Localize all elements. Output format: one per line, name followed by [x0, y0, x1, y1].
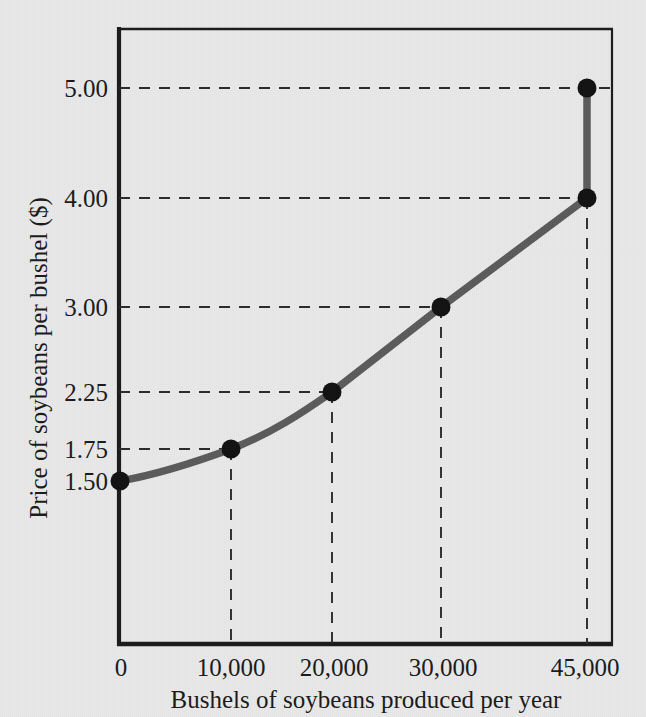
x-tick-label-20000: 20,000 [300, 654, 369, 681]
y-tick-label-1-50: 1.50 [64, 468, 108, 495]
data-point-30000-3-00 [432, 298, 451, 317]
x-tick-labels: 0 10,000 20,000 30,000 45,000 [115, 654, 620, 681]
data-point-45000-5-00 [578, 79, 597, 98]
supply-curve [120, 88, 587, 481]
x-tick-label-0: 0 [115, 654, 128, 681]
y-tick-label-3-00: 3.00 [64, 294, 108, 321]
data-point-markers [111, 79, 597, 491]
y-tick-label-1-75: 1.75 [64, 436, 108, 463]
y-tick-label-5-00: 5.00 [64, 75, 108, 102]
data-point-20000-2-25 [323, 383, 342, 402]
supply-curve-chart: 5.00 4.00 3.00 2.25 1.75 1.50 0 10,000 2… [0, 0, 646, 717]
supply-curve-path [120, 88, 587, 481]
data-point-45000-4-00 [578, 189, 597, 208]
x-tick-label-30000: 30,000 [409, 654, 478, 681]
chart-figure: 5.00 4.00 3.00 2.25 1.75 1.50 0 10,000 2… [0, 0, 646, 717]
y-tick-labels: 5.00 4.00 3.00 2.25 1.75 1.50 [64, 75, 108, 495]
data-point-0-1-50 [111, 472, 130, 491]
horizontal-gridlines [119, 88, 612, 449]
x-tick-label-10000: 10,000 [197, 654, 266, 681]
data-point-10000-1-75 [222, 440, 241, 459]
x-tick-label-45000: 45,000 [551, 654, 620, 681]
plot-frame [117, 27, 613, 646]
x-axis-title: Bushels of soybeans produced per year [171, 686, 563, 713]
y-tick-label-4-00: 4.00 [64, 185, 108, 212]
y-axis-title: Price of soybeans per bushel ($) [25, 197, 53, 518]
y-tick-label-2-25: 2.25 [64, 379, 108, 406]
